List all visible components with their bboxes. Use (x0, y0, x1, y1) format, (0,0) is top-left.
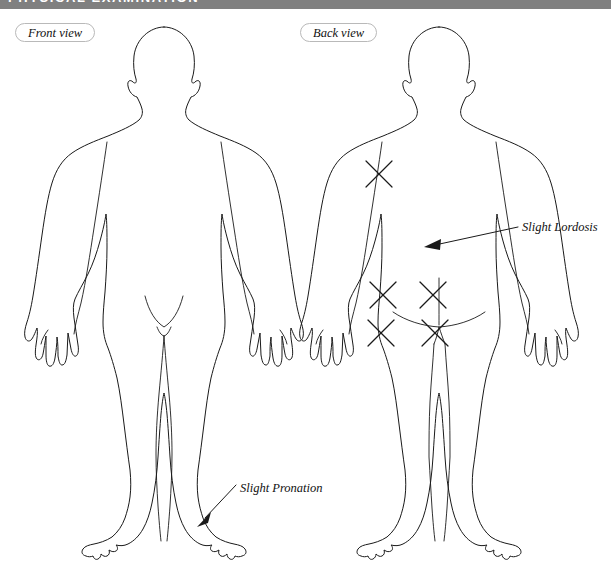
front-body-outline (25, 27, 304, 559)
mark-x-gluteal-upper-left (370, 282, 396, 308)
front-groin-line (145, 296, 183, 327)
front-view-label: Front view (15, 23, 95, 42)
back-view-figure (300, 27, 579, 559)
back-left-hand-crease (316, 330, 323, 344)
back-left-arm-seam (349, 142, 382, 334)
front-leg-separation (156, 336, 164, 541)
leader-slight-lordosis (424, 227, 518, 250)
annotation-slight-pronation: Slight Pronation (240, 481, 323, 496)
front-left-hand-crease (41, 330, 48, 344)
front-right-arm-seam (221, 142, 254, 334)
body-chart-svg (0, 0, 611, 587)
back-right-hand-crease (555, 330, 562, 344)
front-left-arm-seam (74, 142, 107, 334)
front-right-hand-crease (280, 330, 287, 344)
body-chart-canvas (0, 0, 611, 587)
back-leg-separation-right (444, 344, 450, 541)
leader-slight-pronation (197, 485, 236, 527)
mark-x-gluteal-upper-right (420, 282, 446, 308)
back-view-label: Back view (300, 23, 377, 42)
front-crotch-notch (157, 327, 171, 336)
front-leg-separation-right (164, 336, 172, 541)
back-right-arm-seam (496, 142, 529, 334)
annotation-slight-lordosis: Slight Lordosis (522, 220, 598, 235)
leader-arrowhead-lordosis (424, 239, 441, 250)
front-view-figure (25, 27, 304, 559)
